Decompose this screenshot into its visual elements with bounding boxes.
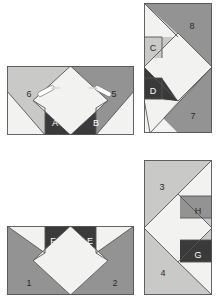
label-H: H [195, 206, 202, 216]
label-3: 3 [159, 182, 164, 192]
label-E: E [87, 236, 93, 246]
label-1: 1 [26, 278, 31, 288]
panel-bottom-right-unit: 3 H G 4 [144, 160, 212, 295]
label-A: A [52, 118, 58, 128]
label-4: 4 [160, 268, 165, 278]
panel-top-left-unit: 6 5 A B [7, 66, 134, 135]
label-B: B [93, 118, 99, 128]
label-C: C [150, 43, 157, 53]
label-D: D [150, 86, 157, 96]
label-2: 2 [112, 278, 117, 288]
label-5: 5 [111, 89, 116, 99]
panel-bottom-left-unit: 1 2 F E [7, 226, 134, 295]
label-7: 7 [190, 111, 195, 121]
label-8: 8 [189, 21, 194, 31]
label-G: G [194, 250, 201, 260]
label-F: F [50, 236, 56, 246]
panel-top-right-unit: 8 C D 7 [144, 3, 212, 133]
label-6: 6 [26, 89, 31, 99]
